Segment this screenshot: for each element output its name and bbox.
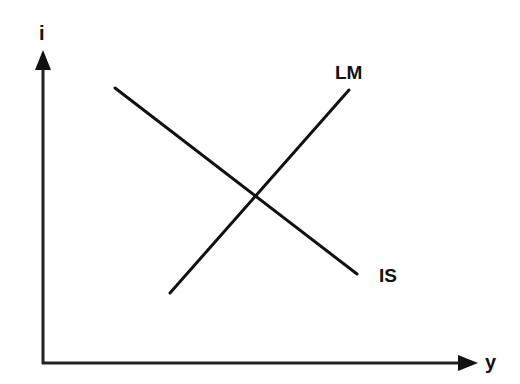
is-label: IS xyxy=(379,265,397,286)
is-curve xyxy=(115,88,357,274)
x-axis-arrow-icon xyxy=(458,355,478,371)
y-axis-label: i xyxy=(39,22,45,44)
lm-label: LM xyxy=(335,62,362,83)
x-axis-label: y xyxy=(485,351,497,373)
lm-curve xyxy=(170,90,349,293)
is-lm-diagram: i y LM IS xyxy=(0,0,520,384)
y-axis-arrow-icon xyxy=(35,50,51,70)
